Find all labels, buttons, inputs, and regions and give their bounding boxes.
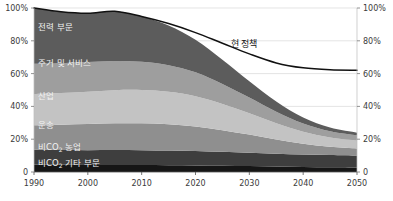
band-label-0: 비CO2 기타 부문	[38, 158, 100, 169]
x-axis-labels: 1990200020102020203020402050	[24, 179, 367, 188]
x-label-2050: 2050	[347, 179, 367, 188]
x-label-2010: 2010	[131, 179, 151, 188]
x-label-2000: 2000	[78, 179, 98, 188]
stacked-area-chart: 100%80%60%40%20%0 100%80%60%40%20%0 1990…	[0, 0, 393, 201]
y-label-right-20: 20%	[363, 135, 381, 144]
current-policy-label: 현 정책	[231, 38, 258, 49]
band-label-3: 산업	[38, 91, 54, 101]
y-label-right-100: 100%	[363, 4, 386, 13]
y-label-right-60: 60%	[363, 70, 381, 79]
x-label-2040: 2040	[293, 179, 313, 188]
y-label-right-80: 80%	[363, 37, 381, 46]
x-label-2030: 2030	[239, 179, 259, 188]
band-label-5: 전력 부문	[38, 22, 73, 32]
band-label-2: 운송	[38, 120, 54, 130]
y-label-right-40: 40%	[363, 102, 381, 111]
y-label-left-80: 80%	[10, 37, 28, 46]
y-axis-left-labels: 100%80%60%40%20%0	[5, 4, 28, 177]
y-axis-right-labels: 100%80%60%40%20%0	[363, 4, 386, 177]
band-label-4: 주거 및 서비스	[38, 58, 91, 68]
x-label-2020: 2020	[185, 179, 205, 188]
x-label-1990: 1990	[24, 179, 44, 188]
policy-line-text: 현 정책	[231, 38, 258, 49]
y-label-left-20: 20%	[10, 135, 28, 144]
y-label-left-100: 100%	[5, 4, 28, 13]
y-label-left-0: 0	[23, 168, 28, 177]
y-label-right-0: 0	[363, 168, 368, 177]
chart-canvas: 100%80%60%40%20%0 100%80%60%40%20%0 1990…	[0, 0, 393, 201]
y-label-left-40: 40%	[10, 102, 28, 111]
y-label-left-60: 60%	[10, 70, 28, 79]
